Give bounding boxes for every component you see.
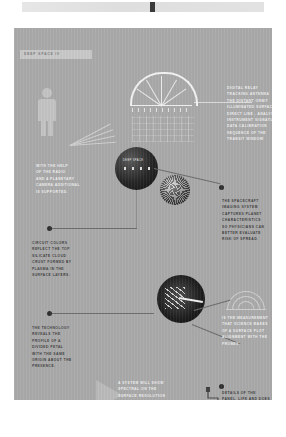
right-caption-one: DIGITAL RELAY TRACKING ANTENNA THE DISTA…	[227, 85, 272, 143]
fan-lines-graphic	[70, 124, 116, 146]
figure-leg-left	[41, 120, 46, 136]
right-caption-three: IS THE MEASUREMENT THAT SCIENCE MAKES OF…	[222, 315, 268, 347]
planet-photo-caption: DEEP SPACE	[123, 159, 143, 162]
leader-dot-upper-right	[219, 185, 224, 190]
figure-body	[38, 99, 56, 121]
planet-photo-markers	[124, 167, 150, 170]
asteroid-texture	[160, 175, 190, 205]
left-caption-one: WITH THE HELP OF THE RADIO AND A PLANETA…	[36, 163, 80, 195]
asteroid-photo	[160, 175, 190, 205]
leader-line-left-three	[50, 313, 154, 314]
left-caption-three: THE TECHNOLOGY REVEALS THE PROFILE OF A …	[32, 325, 72, 370]
poster-header-band: DEEP SPACE IV	[20, 50, 92, 59]
film-strip	[22, 2, 264, 12]
right-caption-four: DETAILS OF THE PANEL, LIFE AND DOES THE …	[222, 390, 270, 400]
radar-baseline	[226, 309, 266, 310]
dome-baseline	[132, 105, 192, 106]
poster-title: DEEP SPACE IV	[24, 51, 60, 58]
leader-dot-lower-right	[219, 384, 224, 389]
planet-surface-photo: DEEP SPACE	[115, 147, 158, 190]
infographic-poster: DEEP SPACE IV	[14, 28, 272, 400]
poster-page: DEEP SPACE IV	[0, 0, 286, 437]
space-probe-photo	[157, 275, 205, 323]
bottom-center-caption: A SYSTEM WILL SHOW SPECTRAL ON THE SURFA…	[118, 380, 172, 400]
dome-tick-marks	[132, 108, 192, 112]
leader-dot-left-two	[47, 226, 52, 231]
film-strip-marker	[150, 2, 155, 12]
radar-dial-diagram	[226, 284, 266, 310]
leader-line-vertical	[136, 190, 137, 228]
left-caption-two: CIRCUIT COLORS REFLECT THE TOP SILICATE …	[32, 240, 72, 278]
dome-ray	[161, 76, 162, 106]
right-caption-two: THE SPACECRAFT IMAGING SYSTEM CAPTURES P…	[222, 198, 264, 243]
leader-dot-left-three	[47, 311, 52, 316]
human-scale-figure	[36, 88, 58, 136]
grid-schematic	[132, 116, 194, 142]
leader-line-left-two	[50, 228, 137, 229]
dome-arc-diagram	[130, 72, 194, 106]
figure-leg-right	[48, 120, 53, 136]
figure-head	[42, 88, 52, 98]
